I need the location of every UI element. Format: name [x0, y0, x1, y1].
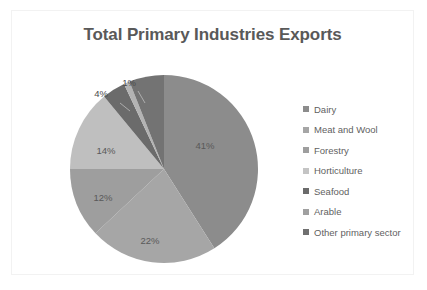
legend-item-label: Horticulture [314, 166, 363, 176]
pie-chart: 41%22%12%14%4%1% [68, 73, 260, 265]
legend-item[interactable]: Arable [303, 202, 427, 223]
pie-slice-label: 4% [94, 88, 108, 99]
legend-swatch-icon [303, 188, 309, 194]
legend-swatch-icon [303, 168, 309, 174]
legend-item[interactable]: Other primary sector [303, 222, 427, 243]
pie-slice-label: 22% [140, 235, 159, 246]
legend-item-label: Forestry [314, 146, 349, 156]
legend-item-label: Other primary sector [314, 228, 401, 238]
legend-swatch-icon [303, 147, 309, 153]
pie-slice-label: 14% [96, 145, 115, 156]
legend-swatch-icon [303, 106, 309, 112]
legend-item-label: Seafood [314, 187, 349, 197]
legend-item[interactable]: Horticulture [303, 161, 427, 182]
legend-item-label: Dairy [314, 105, 336, 115]
legend-item-label: Meat and Wool [314, 125, 378, 135]
chart-frame: Total Primary Industries Exports 41%22%1… [11, 10, 414, 275]
legend-swatch-icon [303, 209, 309, 215]
pie-slice-label: 12% [93, 192, 112, 203]
legend-item[interactable]: Dairy [303, 99, 427, 120]
legend-item[interactable]: Meat and Wool [303, 120, 427, 141]
legend-swatch-icon [303, 229, 309, 235]
pie-slices-svg [68, 73, 260, 265]
legend-item-label: Arable [314, 207, 341, 217]
legend-item[interactable]: Seafood [303, 181, 427, 202]
legend-swatch-icon [303, 127, 309, 133]
chart-legend: DairyMeat and WoolForestryHorticultureSe… [303, 99, 427, 243]
chart-title: Total Primary Industries Exports [12, 25, 413, 45]
legend-item[interactable]: Forestry [303, 140, 427, 161]
pie-slice-label: 1% [122, 77, 136, 88]
pie-slice-label: 41% [195, 140, 214, 151]
